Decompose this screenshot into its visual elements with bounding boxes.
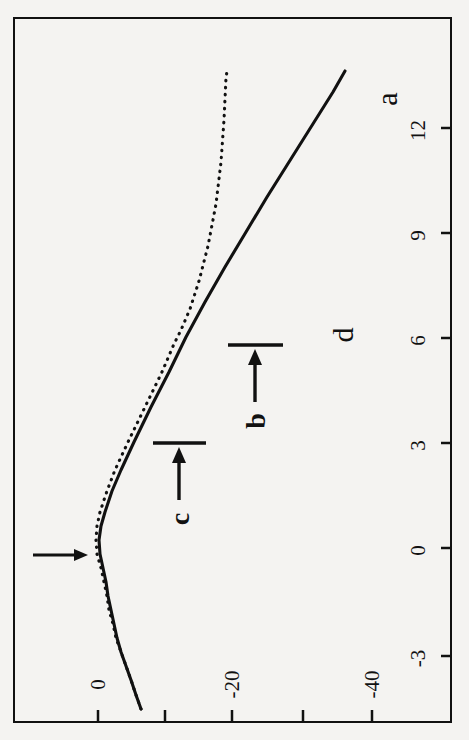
annotation-label-b: b [240,405,272,437]
y-tick-label-0: 0 [86,665,111,705]
x-tick-label-6: 6 [406,321,431,361]
x-tick-label-12: 12 [406,111,431,151]
x-tick-label-0: 0 [406,531,431,571]
annotation-label-c: c [164,503,196,535]
curve-label-d: d [326,318,360,352]
y-tick-label-minus20: -20 [220,665,245,705]
curve-label-a: a [370,82,404,116]
x-tick-label-minus3: -3 [406,639,431,679]
x-tick-label-9: 9 [406,216,431,256]
x-tick-label-3: 3 [406,426,431,466]
plot-frame [13,17,452,723]
figure-page: -3 0 3 6 9 12 0 -20 -40 a d c b [0,0,469,740]
y-tick-label-minus40: -40 [360,665,385,705]
